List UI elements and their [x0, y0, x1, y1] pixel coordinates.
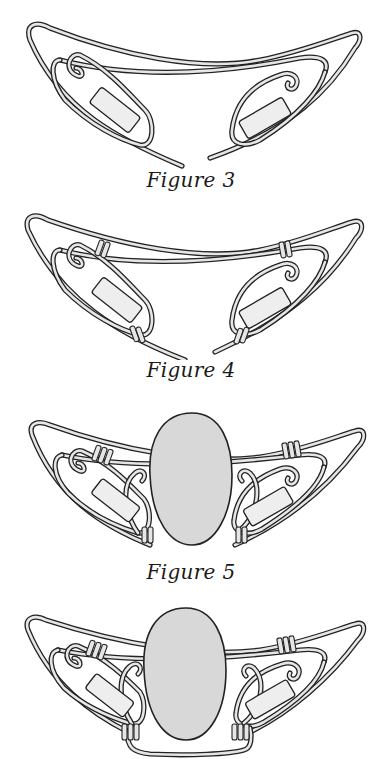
- figure-6-illustration: [0, 598, 382, 759]
- figure-3-caption: Figure 3: [0, 168, 382, 192]
- figure-4-illustration: [0, 200, 382, 360]
- oval-stone: [144, 608, 226, 740]
- figure-4-caption: Figure 4: [0, 358, 382, 382]
- wire-frame: [27, 216, 361, 360]
- figure-3-illustration: [0, 0, 382, 170]
- oval-stone: [150, 413, 232, 545]
- tube-bead-right: [243, 486, 294, 526]
- figure-5-illustration: [0, 405, 382, 555]
- wire-frame: [29, 24, 360, 166]
- figure-5-caption: Figure 5: [0, 560, 382, 584]
- tube-bead-right: [245, 679, 296, 719]
